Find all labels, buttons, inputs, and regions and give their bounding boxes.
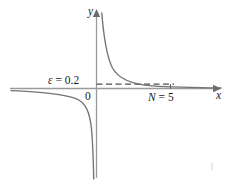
epsilon-number: 0.2 <box>65 74 79 86</box>
n-symbol: N <box>148 91 156 103</box>
y-axis-arrowhead <box>93 9 100 17</box>
curve-branch-negative <box>11 91 94 179</box>
n-threshold-label: N = 5 <box>148 92 174 104</box>
function-graph-figure: ε = 0.2 N = 5 0 y x <box>0 0 228 180</box>
y-axis-label: y <box>88 6 93 18</box>
x-axis-label: x <box>216 90 221 102</box>
n-number: 5 <box>168 91 174 103</box>
epsilon-value-label: ε = 0.2 <box>48 75 79 87</box>
scan-artifact <box>211 163 213 170</box>
n-equals-sign: = <box>156 91 168 103</box>
origin-label: 0 <box>85 91 91 103</box>
plot-canvas <box>0 0 228 180</box>
epsilon-equals-sign: = <box>53 74 65 86</box>
curve-branch-positive <box>102 13 221 88</box>
